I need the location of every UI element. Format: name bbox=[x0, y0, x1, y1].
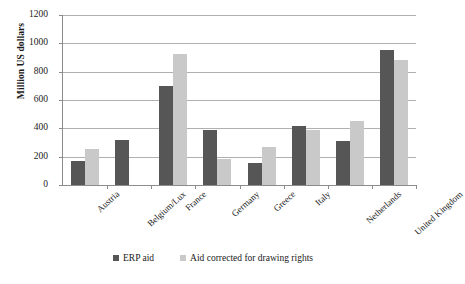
bar bbox=[336, 141, 350, 185]
x-tick-mark bbox=[195, 185, 196, 189]
x-tick-mark bbox=[151, 185, 152, 189]
x-category-label: Germany bbox=[229, 189, 261, 219]
y-tick-label: 800 bbox=[2, 67, 48, 77]
gridline bbox=[63, 43, 416, 44]
x-category-label: Netherlands bbox=[364, 189, 403, 226]
x-tick-mark bbox=[372, 185, 373, 189]
x-category-label: Italy bbox=[313, 189, 332, 207]
x-tick-mark bbox=[328, 185, 329, 189]
x-tick-mark bbox=[284, 185, 285, 189]
bar bbox=[394, 60, 408, 185]
x-category-label: Belgium/Lux bbox=[145, 189, 187, 229]
bar bbox=[380, 50, 394, 185]
bar bbox=[203, 130, 217, 185]
bar bbox=[262, 147, 276, 185]
bar bbox=[115, 140, 129, 185]
bar bbox=[173, 54, 187, 185]
x-tick-mark bbox=[416, 185, 417, 189]
bar bbox=[292, 126, 306, 185]
bar bbox=[248, 163, 262, 185]
y-tick-mark bbox=[59, 15, 63, 16]
legend-swatch bbox=[180, 255, 186, 261]
bar bbox=[350, 121, 364, 185]
gridline bbox=[63, 72, 416, 73]
bar bbox=[71, 161, 85, 185]
x-category-label: Greece bbox=[272, 189, 298, 213]
x-category-label: United Kingdom bbox=[413, 189, 465, 237]
gridline bbox=[63, 15, 416, 16]
legend-entry: Aid corrected for drawing rights bbox=[180, 253, 313, 263]
y-tick-mark bbox=[59, 100, 63, 101]
x-tick-mark bbox=[107, 185, 108, 189]
x-category-label: Austria bbox=[95, 189, 121, 214]
x-category-label: France bbox=[183, 189, 208, 213]
y-tick-label: 1000 bbox=[2, 38, 48, 48]
y-tick-label: 400 bbox=[2, 123, 48, 133]
bar bbox=[159, 86, 173, 185]
x-tick-mark bbox=[240, 185, 241, 189]
bar bbox=[306, 130, 320, 185]
plot-area: 020040060080010001200 bbox=[62, 15, 416, 186]
y-tick-label: 0 bbox=[2, 180, 48, 190]
y-tick-label: 200 bbox=[2, 152, 48, 162]
bar bbox=[217, 159, 231, 185]
y-tick-mark bbox=[59, 128, 63, 129]
gridline bbox=[63, 100, 416, 101]
y-tick-mark bbox=[59, 157, 63, 158]
chart-legend: ERP aidAid corrected for drawing rights bbox=[0, 253, 426, 263]
legend-label: Aid corrected for drawing rights bbox=[190, 253, 313, 263]
y-tick-label: 600 bbox=[2, 95, 48, 105]
y-tick-mark bbox=[59, 72, 63, 73]
legend-entry: ERP aid bbox=[113, 253, 154, 263]
y-tick-label: 1200 bbox=[2, 10, 48, 20]
legend-label: ERP aid bbox=[123, 253, 154, 263]
bar bbox=[85, 149, 99, 185]
y-tick-mark bbox=[59, 43, 63, 44]
legend-swatch bbox=[113, 255, 119, 261]
y-tick-mark bbox=[59, 185, 63, 186]
